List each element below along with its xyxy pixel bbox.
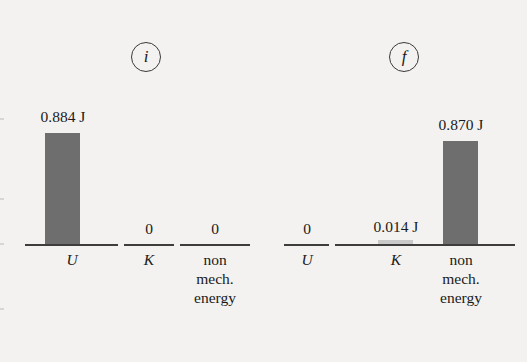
category-label-u-final: U — [272, 250, 342, 269]
category-label-non-mech-initial: non mech. energy — [180, 250, 250, 307]
panel-initial-state: i 0.884 J 0 0 U K non mech. energy — [0, 0, 263, 362]
panel-final-state: f 0 0.014 J 0.870 J U K non mech. energy — [263, 0, 526, 362]
category-label-line-1: non — [180, 250, 250, 269]
value-label-k-final: 0.014 J — [351, 218, 441, 236]
category-label-non-mech-final: non mech. energy — [426, 250, 496, 307]
category-label-line-3: energy — [426, 288, 496, 307]
axis-segment-non-mech — [180, 244, 250, 246]
category-label-line-1: non — [426, 250, 496, 269]
axis-segment-k — [335, 244, 431, 246]
value-label-non-mech-initial: 0 — [180, 220, 250, 238]
category-label-line-3: energy — [180, 288, 250, 307]
category-label-line-2: mech. — [180, 269, 250, 288]
bar-u-initial — [45, 133, 80, 244]
value-label-non-mech-final: 0.870 J — [415, 116, 507, 134]
axis-segment-u — [284, 244, 329, 246]
axis-segment-u — [25, 244, 118, 246]
category-label-k-final: K — [361, 250, 431, 269]
axis-segment-k — [124, 244, 174, 246]
value-label-u-initial: 0.884 J — [8, 108, 118, 126]
value-label-k-initial: 0 — [114, 220, 184, 238]
axis-segment-non-mech — [431, 244, 515, 246]
category-label-line-2: mech. — [426, 269, 496, 288]
category-label-k-initial: K — [114, 250, 184, 269]
state-marker-initial: i — [131, 42, 161, 72]
bar-k-final — [378, 240, 413, 244]
category-label-u-initial: U — [32, 250, 112, 269]
bar-non-mech-final — [443, 141, 478, 244]
state-marker-final: f — [389, 42, 419, 72]
value-label-u-final: 0 — [272, 220, 342, 238]
energy-bar-chart-figure: i 0.884 J 0 0 U K non mech. energy f 0 0… — [0, 0, 527, 362]
